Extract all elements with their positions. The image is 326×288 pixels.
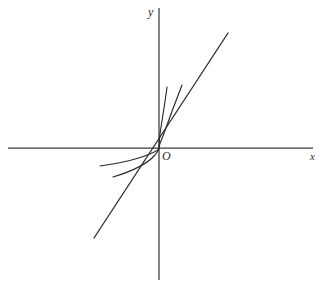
curve-inner — [100, 87, 167, 166]
y-axis-label: y — [148, 6, 153, 18]
diagram-svg — [0, 0, 326, 288]
origin-label: O — [162, 150, 171, 162]
straight-line-through-origin — [94, 33, 228, 238]
x-axis-label: x — [310, 151, 315, 162]
curve-outer — [113, 85, 182, 177]
figure-canvas: y x O — [0, 0, 326, 288]
